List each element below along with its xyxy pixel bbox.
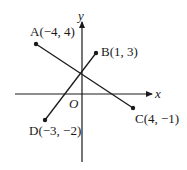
point-c: [131, 106, 135, 110]
point-b-label: B(1, 3): [101, 44, 138, 59]
point-d-label: D(−3, −2): [29, 123, 81, 138]
point-d: [43, 118, 47, 122]
point-a-label: A(−4, 4): [30, 24, 75, 39]
point-c-label: C(4, −1): [135, 111, 179, 126]
point-b: [94, 51, 98, 55]
coordinate-diagram: y x O A(−4, 4) B(1, 3) C(4, −1) D(−3, −2…: [0, 0, 187, 170]
x-axis-label: x: [154, 86, 161, 101]
origin-label: O: [69, 96, 79, 111]
point-a: [34, 42, 38, 46]
y-axis-label: y: [76, 8, 84, 23]
